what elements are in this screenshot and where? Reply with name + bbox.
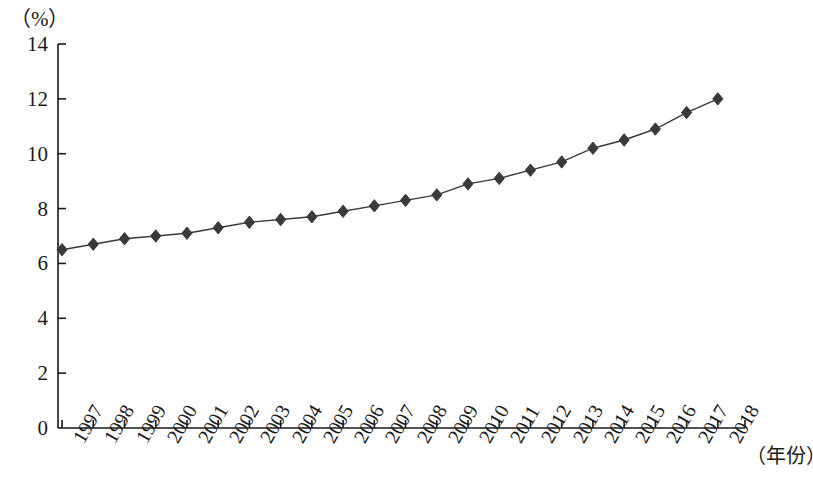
data-point-marker (525, 164, 535, 176)
data-point-marker (244, 216, 254, 228)
plot-area (0, 0, 813, 480)
data-point-marker (463, 178, 473, 190)
data-point-marker (713, 93, 723, 105)
data-point-marker (369, 200, 379, 212)
data-series (57, 93, 723, 256)
data-point-marker (432, 189, 442, 201)
data-point-marker (307, 211, 317, 223)
data-point-marker (88, 238, 98, 250)
data-point-marker (557, 156, 567, 168)
series-line (62, 99, 718, 250)
line-chart: （%） （年份） 02468101214 1997199819992000200… (0, 0, 813, 480)
data-point-marker (494, 172, 504, 184)
data-point-marker (151, 230, 161, 242)
data-point-marker (400, 194, 410, 206)
data-point-marker (119, 233, 129, 245)
data-point-marker (213, 222, 223, 234)
data-point-marker (682, 106, 692, 118)
data-point-marker (338, 205, 348, 217)
data-point-marker (182, 227, 192, 239)
data-point-marker (588, 142, 598, 154)
data-point-marker (650, 123, 660, 135)
data-point-marker (619, 134, 629, 146)
data-point-marker (276, 213, 286, 225)
